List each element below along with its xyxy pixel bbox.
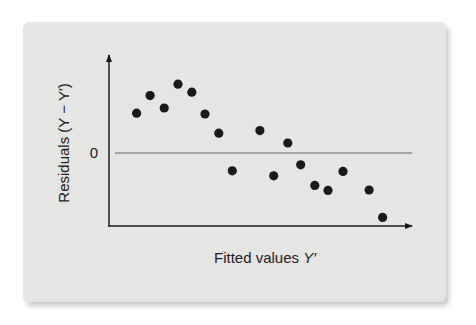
data-point — [378, 213, 387, 222]
data-points — [132, 80, 387, 222]
data-point — [255, 126, 264, 135]
data-point — [214, 129, 223, 138]
data-point — [269, 171, 278, 180]
residual-plot: 0 Residuals (Y − Y′) Fitted values Y′ — [0, 0, 476, 325]
x-axis-label: Fitted values Y′ — [214, 249, 317, 266]
data-point — [296, 160, 305, 169]
data-point — [310, 181, 319, 190]
data-point — [160, 103, 169, 112]
data-point — [146, 91, 155, 100]
data-point — [338, 167, 347, 176]
data-point — [200, 109, 209, 118]
data-point — [323, 186, 332, 195]
data-point — [228, 166, 237, 175]
data-point — [132, 109, 141, 118]
y-tick-zero: 0 — [90, 144, 98, 161]
data-point — [365, 185, 374, 194]
data-point — [283, 138, 292, 147]
data-point — [173, 80, 182, 89]
y-axis-label: Residuals (Y − Y′) — [55, 83, 72, 202]
data-point — [187, 88, 196, 97]
